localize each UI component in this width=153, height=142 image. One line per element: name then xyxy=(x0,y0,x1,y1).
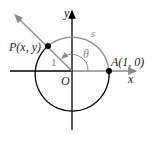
point-a-label: A(1, 0) xyxy=(110,55,144,69)
arc-s xyxy=(48,37,109,71)
axis-x-label: x xyxy=(127,72,134,86)
origin-label: O xyxy=(61,74,70,88)
point-p-label: P(x, y) xyxy=(8,40,41,54)
point-p xyxy=(45,43,51,49)
angle-theta-label: θ xyxy=(83,47,89,61)
radius-label: 1 xyxy=(51,56,57,68)
unit-circle-diagram: y x O P(x, y) A(1, 0) s θ 1 xyxy=(0,0,153,142)
axis-y-label: y xyxy=(63,6,70,20)
arc-s-label: s xyxy=(91,27,95,39)
